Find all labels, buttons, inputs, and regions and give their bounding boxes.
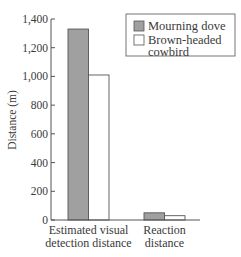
legend-swatch-cowbird: [134, 35, 144, 45]
bar-chart: 02004006008001,0001,2001,400 Distance (m…: [0, 0, 241, 257]
category-label: Reaction: [143, 223, 186, 237]
bar: [68, 29, 89, 220]
legend-swatch-mourning-dove: [134, 21, 144, 31]
bar: [89, 75, 110, 220]
y-tick-label: 1,400: [22, 13, 48, 26]
y-axis: 02004006008001,0001,2001,400: [22, 13, 55, 226]
category-label: distance: [145, 236, 184, 250]
category-label: detection distance: [45, 236, 131, 250]
y-tick-label: 400: [31, 157, 49, 169]
category-labels: Estimated visualdetection distanceReacti…: [45, 223, 185, 250]
y-tick-label: 1,000: [22, 70, 48, 83]
legend-label: Mourning dove: [148, 19, 226, 33]
y-tick-label: 800: [31, 99, 49, 111]
bar: [144, 213, 165, 220]
legend: Mourning doveBrown-headedcowbird: [126, 14, 235, 59]
y-tick-label: 1,200: [22, 42, 48, 55]
category-label: Estimated visual: [49, 223, 129, 237]
y-tick-label: 0: [42, 214, 48, 226]
bar: [165, 216, 186, 220]
legend-label: cowbird: [148, 45, 190, 59]
y-tick-label: 200: [31, 185, 49, 197]
y-axis-title: Distance (m): [6, 90, 19, 150]
y-tick-label: 600: [31, 128, 49, 140]
